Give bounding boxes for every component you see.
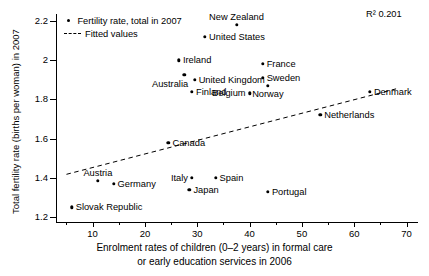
x-tick-label-50: 50: [297, 228, 308, 239]
data-point-denmark: [368, 90, 371, 93]
x-tick-70: [407, 222, 408, 227]
legend-label-fitted: Fitted values: [85, 29, 138, 39]
data-point-finland: [190, 90, 193, 93]
data-label-ireland: Ireland: [183, 55, 211, 65]
y-tick-label-1.6: 1.6: [20, 133, 48, 144]
data-point-united-states: [203, 35, 206, 38]
data-point-germany: [112, 182, 115, 185]
x-axis-label-line2: or early education services in 2006: [0, 256, 429, 267]
data-label-belgium: Belgium: [212, 88, 246, 98]
x-tick-minor-25: [171, 222, 172, 225]
data-point-japan: [188, 188, 191, 191]
data-point-slovak-republic: [70, 206, 73, 209]
x-axis-label-line1: Enrolment rates of children (0–2 years) …: [0, 242, 429, 253]
legend-entry-fitted: Fitted values: [64, 29, 182, 42]
data-point-united-kingdom: [193, 78, 196, 81]
data-label-denmark: Denmark: [374, 87, 412, 97]
data-label-sweden: Sweden: [267, 73, 301, 83]
data-point-spain: [214, 176, 217, 179]
x-tick-minor-35: [223, 222, 224, 225]
data-label-australia: Australia: [152, 79, 188, 89]
data-label-spain: Spain: [220, 173, 244, 183]
x-tick-minor-15: [119, 222, 120, 225]
y-axis-line: [56, 14, 57, 223]
legend-label-fertility: Fertility rate, total in 2007: [77, 16, 181, 26]
y-tick-2: [50, 60, 56, 61]
x-tick-20: [145, 222, 146, 227]
data-label-canada: Canada: [172, 138, 205, 148]
x-tick-30: [197, 222, 198, 227]
x-tick-10: [93, 222, 94, 227]
x-tick-50: [302, 222, 303, 227]
data-point-ireland: [177, 58, 180, 61]
x-tick-label-30: 30: [192, 228, 203, 239]
x-tick-label-40: 40: [244, 228, 255, 239]
data-point-canada: [167, 141, 170, 144]
y-tick-1.2: [50, 217, 56, 218]
data-label-united-states: United States: [209, 32, 265, 42]
data-point-norway: [266, 84, 269, 87]
data-label-portugal: Portugal: [272, 187, 307, 197]
data-label-germany: Germany: [118, 179, 156, 189]
dashed-line-icon: [64, 33, 81, 34]
scatter-chart-figure: 1.21.41.61.822.2 10203040506070 Total fe…: [0, 0, 429, 276]
y-axis-label: Total fertility rate (births per woman) …: [10, 29, 21, 214]
data-point-austria: [96, 179, 99, 182]
data-label-italy: Italy: [171, 173, 188, 183]
y-tick-label-2: 2: [20, 54, 48, 65]
x-tick-40: [250, 222, 251, 227]
y-tick-1.6: [50, 139, 56, 140]
x-tick-minor-45: [276, 222, 277, 225]
data-label-slovak-republic: Slovak Republic: [76, 202, 143, 212]
r-squared-annotation: R² 0.201: [366, 9, 402, 19]
y-tick-label-2.2: 2.2: [20, 15, 48, 26]
x-tick-minor-65: [380, 222, 381, 225]
data-point-france: [261, 62, 264, 65]
x-tick-label-60: 60: [349, 228, 360, 239]
x-tick-label-20: 20: [140, 228, 151, 239]
y-tick-1.8: [50, 99, 56, 100]
data-label-new-zealand: New Zealand: [209, 12, 264, 22]
x-tick-minor-5: [66, 222, 67, 225]
y-tick-1.4: [50, 178, 56, 179]
data-label-austria: Austria: [83, 168, 112, 178]
dot-marker-icon: [67, 19, 70, 22]
x-tick-label-10: 10: [87, 228, 98, 239]
data-point-italy: [190, 176, 193, 179]
data-label-united-kingdom: United Kingdom: [199, 75, 265, 85]
x-axis-line: [56, 222, 418, 223]
x-tick-60: [354, 222, 355, 227]
x-tick-label-70: 70: [401, 228, 412, 239]
data-label-netherlands: Netherlands: [324, 110, 374, 120]
x-tick-minor-55: [328, 222, 329, 225]
data-point-belgium: [248, 92, 251, 95]
y-tick-label-1.8: 1.8: [20, 93, 48, 104]
data-point-new-zealand: [235, 23, 238, 26]
y-tick-label-1.2: 1.2: [20, 211, 48, 222]
data-point-australia: [182, 73, 185, 76]
legend-entry-fertility: Fertility rate, total in 2007: [64, 16, 182, 29]
data-point-portugal: [266, 190, 269, 193]
data-point-netherlands: [319, 113, 322, 116]
data-label-japan: Japan: [193, 185, 218, 195]
data-label-france: France: [267, 59, 296, 69]
y-tick-2.2: [50, 21, 56, 22]
chart-legend: Fertility rate, total in 2007 Fitted val…: [64, 16, 182, 42]
y-tick-label-1.4: 1.4: [20, 172, 48, 183]
data-label-norway: Norway: [252, 89, 284, 99]
